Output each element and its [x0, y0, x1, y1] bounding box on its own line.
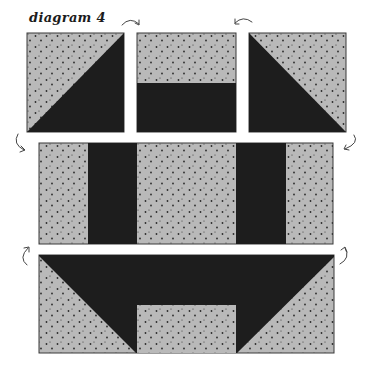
top-row — [27, 33, 346, 132]
two-strip-unit — [137, 33, 236, 132]
rotate-arrow-middle-left-icon — [16, 134, 25, 152]
flying-geese-unit — [39, 255, 334, 353]
middle-row — [39, 143, 333, 244]
rotate-arrow-bottom-right-icon — [340, 247, 347, 264]
rotate-arrow-middle-right-icon — [344, 135, 356, 150]
rotate-arrow-top-left-icon — [122, 20, 139, 25]
quilt-diagram — [0, 0, 373, 367]
strip-set — [39, 143, 333, 244]
rotate-arrow-top-right-icon — [235, 19, 252, 24]
half-square-triangle-right — [249, 33, 346, 132]
half-square-triangle-left — [27, 33, 124, 132]
bottom-row — [39, 255, 334, 353]
rotate-arrow-bottom-left-icon — [23, 247, 29, 265]
